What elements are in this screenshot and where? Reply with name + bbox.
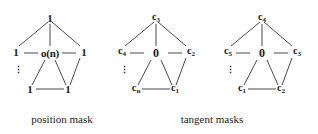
node-left-subscript: 5 [229, 50, 233, 58]
node-bottom-right: c1 [171, 83, 179, 95]
node-bottom-right-subscript: 1 [176, 87, 180, 95]
edge-right-bottom-right [282, 58, 292, 85]
node-bottom-left: 1 [27, 84, 33, 95]
center-node: o(n) [41, 48, 59, 59]
node-bottom-right: c2 [277, 83, 285, 95]
node-bottom-left: c1 [238, 83, 246, 95]
node-bottom-left: cn [132, 83, 141, 95]
edge-top-right [52, 22, 80, 46]
edge-top-left [125, 22, 154, 46]
edge-top-right [158, 22, 186, 46]
ellipsis-vertical: ⋮ [14, 68, 23, 73]
edge-center-bottom-left [138, 60, 151, 85]
diagram-tangent-mask-2: c4 c5 c3 c1 c2 0 ⋮ [212, 0, 318, 108]
node-right-subscript: 2 [192, 50, 196, 58]
node-bottom-right: 1 [65, 84, 71, 95]
node-left: 1 [13, 47, 19, 58]
node-right-subscript: 3 [298, 50, 302, 58]
node-top: c3 [152, 12, 160, 24]
figure-canvas: 1 1 1 1 1 o(n) ⋮ c3 c4 [0, 0, 318, 134]
node-bottom-left-subscript: 1 [243, 87, 247, 95]
edge-top-right [264, 22, 292, 46]
node-right: c2 [187, 46, 195, 58]
ellipsis-vertical: ⋮ [120, 68, 129, 73]
node-bottom-left-subscript: n [136, 87, 140, 95]
node-top-subscript: 4 [263, 16, 267, 24]
node-top: 1 [47, 13, 53, 24]
diagram-position-mask: 1 1 1 1 1 o(n) ⋮ [0, 0, 106, 108]
edge-right-bottom-right [176, 58, 186, 85]
center-node: 0 [153, 47, 159, 59]
node-left: c5 [224, 46, 232, 58]
edge-top-left [19, 22, 48, 46]
edge-center-bottom-right [55, 60, 66, 85]
edge-right-bottom-right [70, 58, 80, 85]
edge-center-bottom-left [32, 60, 45, 85]
node-bottom-right-subscript: 2 [282, 87, 286, 95]
caption-position-mask: position mask [31, 113, 92, 125]
diagram-tangent-mask-1: c3 c4 c2 cn c1 0 ⋮ [106, 0, 212, 108]
center-node: 0 [259, 47, 265, 59]
node-right: c3 [293, 46, 301, 58]
ellipsis-vertical: ⋮ [226, 68, 235, 73]
node-top: c4 [258, 12, 266, 24]
node-right: 1 [81, 47, 87, 58]
edge-center-bottom-left [244, 60, 257, 85]
edge-top-left [231, 22, 260, 46]
caption-tangent-masks: tangent masks [181, 113, 244, 125]
node-left-subscript: 4 [123, 50, 127, 58]
node-left: c4 [118, 46, 126, 58]
node-top-subscript: 3 [157, 16, 161, 24]
